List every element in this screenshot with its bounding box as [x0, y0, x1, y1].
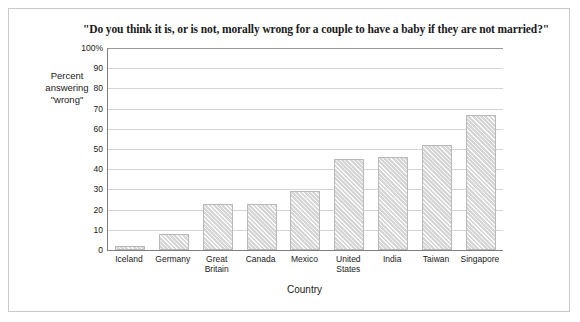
bar-slot	[415, 48, 459, 250]
bar-series	[108, 48, 503, 250]
bar[interactable]	[422, 145, 452, 250]
y-axis-tick-label: 90	[67, 64, 103, 73]
x-axis-tick-label-line: States	[326, 264, 370, 274]
x-axis-tick-labels: IcelandGermanyGreatBritainCanadaMexicoUn…	[107, 254, 502, 274]
bar[interactable]	[115, 246, 145, 250]
bar[interactable]	[290, 191, 320, 250]
y-axis-tick-label: 40	[67, 165, 103, 174]
bar-slot	[371, 48, 415, 250]
y-axis-tick-label: 50	[67, 145, 103, 154]
x-axis-tick-label-line: Britain	[195, 264, 239, 274]
x-axis-tick-label-line: Great	[195, 254, 239, 264]
bar[interactable]	[159, 234, 189, 250]
y-axis-tick-labels: 100%9080706050403020100	[63, 48, 103, 250]
y-axis-tick-label: 30	[67, 185, 103, 194]
bar[interactable]	[203, 204, 233, 250]
y-axis-tick-label: 20	[67, 206, 103, 215]
plot-area	[107, 48, 503, 251]
x-axis-tick-label: Germany	[151, 254, 195, 274]
y-axis-tick-label: 80	[67, 84, 103, 93]
bar-slot	[459, 48, 503, 250]
x-axis-tick-label-line: Taiwan	[414, 254, 458, 264]
y-axis-tick-label: 10	[67, 226, 103, 235]
x-axis-tick-label: India	[370, 254, 414, 274]
x-axis-tick-label: GreatBritain	[195, 254, 239, 274]
x-axis-tick-label-line: United	[326, 254, 370, 264]
x-axis-tick-label-line: Iceland	[107, 254, 151, 264]
bar-slot	[284, 48, 328, 250]
bar-slot	[196, 48, 240, 250]
x-axis-tick-label: Mexico	[283, 254, 327, 274]
x-axis-tick-label-line: Mexico	[283, 254, 327, 264]
y-axis-tick-label: 100%	[67, 44, 103, 53]
bar[interactable]	[247, 204, 277, 250]
bar-slot	[108, 48, 152, 250]
x-axis-tick-label: UnitedStates	[326, 254, 370, 274]
x-axis-tick-label: Singapore	[458, 254, 502, 274]
x-axis-tick-label: Canada	[239, 254, 283, 274]
bar[interactable]	[378, 157, 408, 250]
y-axis-tick-label: 60	[67, 125, 103, 134]
x-axis-title: Country	[107, 284, 502, 295]
bar-slot	[240, 48, 284, 250]
chart-title: "Do you think it is, or is not, morally …	[70, 22, 562, 36]
bar[interactable]	[466, 115, 496, 250]
x-axis-tick-label-line: Singapore	[458, 254, 502, 264]
x-axis-tick-label-line: India	[370, 254, 414, 264]
y-axis-tick-label: 0	[67, 246, 103, 255]
y-axis-tick-label: 70	[67, 105, 103, 114]
chart-page: "Do you think it is, or is not, morally …	[0, 0, 580, 322]
bar-slot	[152, 48, 196, 250]
x-axis-tick-label-line: Germany	[151, 254, 195, 264]
x-axis-tick-label-line: Canada	[239, 254, 283, 264]
bar-slot	[327, 48, 371, 250]
x-axis-tick-label: Taiwan	[414, 254, 458, 274]
x-axis-tick-label: Iceland	[107, 254, 151, 274]
bar[interactable]	[334, 159, 364, 250]
